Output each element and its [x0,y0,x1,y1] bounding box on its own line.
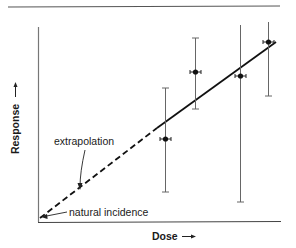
extrapolation-label: extrapolation [54,135,114,147]
data-point [235,25,246,202]
data-points [160,22,274,202]
natural-incidence-label: natural incidence [69,206,149,218]
x-axis-label: Dose [152,230,178,242]
top-rule [8,6,280,7]
data-point [263,22,274,96]
y-axis-label: Response [9,104,21,154]
natural-incidence-pointer [44,212,67,217]
arrow-right-icon [191,235,196,239]
x-axis [38,222,281,223]
fit-line [157,42,276,128]
dose-response-chart: extrapolation natural incidence Dose Res… [0,0,296,248]
arrow-up-icon [14,82,18,87]
data-point [160,88,171,192]
extrapolation-arrow [80,150,85,187]
